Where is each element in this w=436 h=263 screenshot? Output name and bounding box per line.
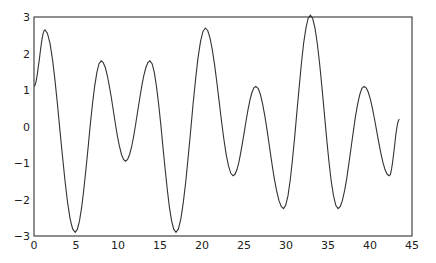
x-tick-label: 0 [31,239,38,252]
x-tick-label: 5 [73,239,80,252]
x-tick-label: 35 [321,239,335,252]
y-tick-label: −3 [14,230,30,243]
x-tick-label: 20 [195,239,209,252]
x-tick-label: 25 [237,239,251,252]
y-tick-label: −1 [14,157,30,170]
x-tick-label: 45 [405,239,419,252]
y-tick-label: 1 [23,84,30,97]
y-tick-label: 3 [23,11,30,24]
line-chart: 051015202530354045 −3−2−10123 [0,0,436,263]
y-axis-ticks: −3−2−10123 [14,11,30,243]
x-tick-label: 40 [363,239,377,252]
y-tick-label: 2 [23,48,30,61]
data-line [34,15,399,232]
y-tick-label: 0 [23,121,30,134]
plot-frame [34,17,412,236]
y-tick-label: −2 [14,194,30,207]
x-axis-ticks: 051015202530354045 [31,239,420,252]
x-tick-label: 30 [279,239,293,252]
x-tick-label: 15 [153,239,167,252]
x-tick-label: 10 [111,239,125,252]
